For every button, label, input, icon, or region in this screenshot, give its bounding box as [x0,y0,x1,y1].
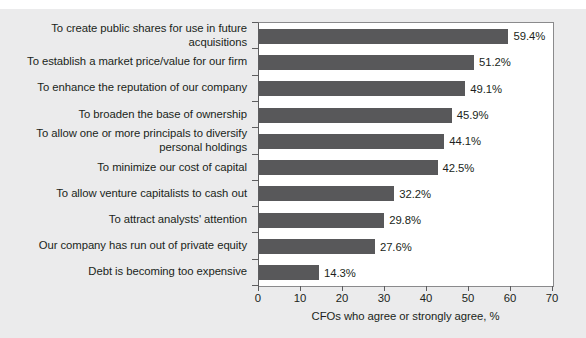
bar-row: 59.4% [259,23,553,49]
bar [259,108,452,123]
figure-top-margin [0,0,586,9]
category-label-row: To create public shares for use in futur… [0,22,253,49]
bar-value-label: 45.9% [457,109,489,121]
bar-value-label: 49.1% [470,83,502,95]
bar-value-label: 44.1% [449,135,481,147]
bar [259,186,394,201]
bar-value-label: 32.2% [399,188,431,200]
bar [259,265,319,280]
bar [259,55,474,70]
x-axis-tick-label: 0 [255,292,261,304]
category-label-row: To allow one or more principals to diver… [0,127,253,154]
x-axis-tick [552,286,553,291]
category-label: To broaden the base of ownership [78,108,247,122]
x-axis-tick-label: 70 [546,292,559,304]
category-axis: To create public shares for use in futur… [0,22,253,285]
bar-value-label: 27.6% [380,241,412,253]
bar-row: 29.8% [259,207,553,233]
category-label-row: To allow venture capitalists to cash out [0,181,253,207]
category-label: To allow one or more principals to diver… [36,127,247,154]
bar-row: 27.6% [259,233,553,259]
category-label-row: To broaden the base of ownership [0,101,253,127]
category-label-row: To establish a market price/value for ou… [0,49,253,75]
x-axis-tick [300,286,301,291]
x-axis-tick [426,286,427,291]
x-axis-tick-label: 60 [504,292,517,304]
bar-value-label: 14.3% [324,267,356,279]
category-label-row: Debt is becoming too expensive [0,259,253,285]
bar-row: 51.2% [259,49,553,75]
bar-row: 45.9% [259,102,553,128]
x-axis-tick [342,286,343,291]
bar-value-label: 42.5% [443,162,475,174]
category-label: Debt is becoming too expensive [88,265,247,279]
x-axis-tick-label: 20 [336,292,349,304]
bar [259,81,465,96]
bar-value-label: 51.2% [479,56,511,68]
chart-figure: To create public shares for use in futur… [0,0,586,338]
category-label-row: Our company has run out of private equit… [0,233,253,259]
bar [259,134,444,149]
category-label: Our company has run out of private equit… [39,239,247,253]
x-axis-tick [258,286,259,291]
x-axis-tick-label: 10 [294,292,307,304]
category-label: To attract analysts' attention [109,213,247,227]
bar-row: 49.1% [259,76,553,102]
bar-series: 59.4% 51.2% 49.1% 45.9% 44.1% 42.5% [259,23,553,286]
bar [259,160,438,175]
x-axis-tick-label: 50 [462,292,475,304]
plot-area: 59.4% 51.2% 49.1% 45.9% 44.1% 42.5% [258,22,554,287]
bar-row: 14.3% [259,260,553,286]
category-label: To create public shares for use in futur… [51,22,247,49]
x-axis-tick-label: 30 [378,292,391,304]
category-label: To minimize our cost of capital [97,161,247,175]
x-axis-title: CFOs who agree or strongly agree, % [258,310,553,322]
bar-row: 44.1% [259,128,553,154]
category-label: To establish a market price/value for ou… [27,55,247,69]
x-axis-tick-label: 40 [420,292,433,304]
bar-row: 32.2% [259,181,553,207]
bar-value-label: 59.4% [513,30,545,42]
x-axis-tick [510,286,511,291]
category-label-row: To attract analysts' attention [0,207,253,233]
category-label: To enhance the reputation of our company [37,81,247,95]
x-axis-tick [468,286,469,291]
category-label-row: To enhance the reputation of our company [0,75,253,101]
category-label-row: To minimize our cost of capital [0,154,253,180]
x-axis-tick-labels: 010203040506070 [258,292,553,307]
bar-row: 42.5% [259,154,553,180]
bar-value-label: 29.8% [389,214,421,226]
category-label: To allow venture capitalists to cash out [56,187,247,201]
bar [259,213,384,228]
bar [259,239,375,254]
bar [259,29,508,44]
x-axis-tick [384,286,385,291]
